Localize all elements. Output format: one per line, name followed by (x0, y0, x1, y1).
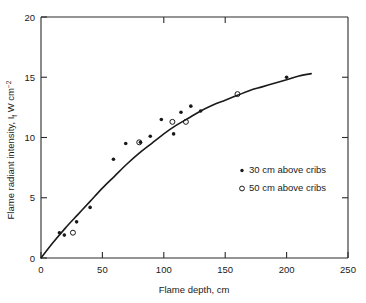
data-point-30cm (124, 142, 128, 146)
data-point-30cm (199, 109, 203, 113)
legend-label-50cm: 50 cm above cribs (249, 182, 326, 193)
x-tick-label: 200 (279, 264, 295, 275)
data-point-30cm (75, 220, 79, 224)
legend-marker-open-circle (240, 186, 245, 191)
series-50cm-points (70, 92, 240, 236)
y-axis-ticks-right (342, 77, 348, 198)
scatter-plot: 0 5 10 15 20 0 50 100 150 200 250 Flame … (0, 0, 366, 303)
y-axis-title-main: Flame radiant intensity, I (5, 117, 16, 220)
y-tick-label: 20 (24, 12, 35, 23)
data-point-30cm (148, 135, 152, 139)
x-axis-title: Flame depth, cm (159, 284, 230, 295)
x-tick-label: 150 (217, 264, 233, 275)
y-axis-title: Flame radiant intensity, If W cm−2 (5, 80, 18, 219)
y-axis-title-tail: W cm (5, 88, 16, 115)
data-point-30cm (179, 110, 183, 114)
chart-figure: 0 5 10 15 20 0 50 100 150 200 250 Flame … (0, 0, 366, 303)
y-tick-label: 0 (30, 253, 35, 264)
data-point-50cm (70, 230, 75, 235)
x-tick-labels: 0 50 100 150 200 250 (38, 264, 356, 275)
legend-label-30cm: 30 cm above cribs (249, 164, 326, 175)
data-point-30cm (189, 104, 193, 108)
y-tick-labels: 0 5 10 15 20 (24, 12, 35, 264)
series-30cm-points (58, 75, 289, 236)
x-tick-label: 0 (38, 264, 43, 275)
x-tick-label: 250 (340, 264, 356, 275)
y-axis-title-group: Flame radiant intensity, If W cm−2 (5, 80, 18, 219)
legend-marker-filled-circle (240, 169, 243, 172)
chart-legend: 30 cm above cribs 50 cm above cribs (240, 164, 327, 193)
plot-frame (41, 17, 348, 258)
data-point-30cm (58, 231, 62, 235)
y-tick-label: 15 (24, 72, 35, 83)
y-axis-title-superscript: −2 (5, 80, 12, 88)
y-tick-label: 5 (30, 192, 35, 203)
x-axis-ticks (41, 252, 348, 258)
x-axis-ticks-top (164, 17, 225, 23)
data-point-30cm (160, 118, 164, 122)
data-point-30cm (172, 132, 176, 136)
y-axis-ticks (41, 17, 47, 258)
data-point-30cm (63, 233, 67, 237)
y-tick-label: 10 (24, 132, 35, 143)
x-tick-label: 100 (156, 264, 172, 275)
data-point-30cm (285, 75, 289, 79)
data-point-30cm (112, 157, 116, 161)
data-point-30cm (88, 206, 92, 210)
x-tick-label: 50 (97, 264, 108, 275)
data-point-50cm (170, 119, 175, 124)
